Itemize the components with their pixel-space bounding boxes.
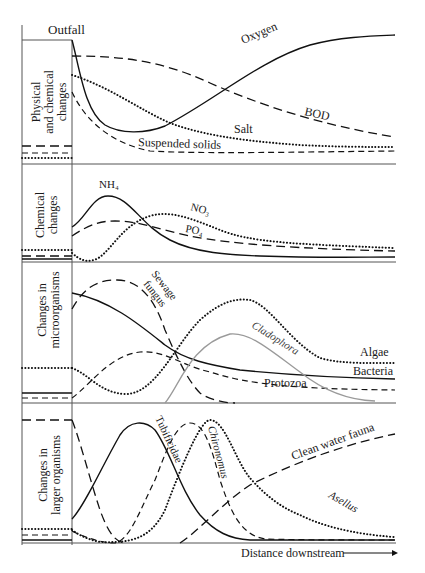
panel1-title-line2: and chemical — [42, 70, 56, 134]
bacteria-curve — [72, 293, 395, 379]
panel-microorganisms: Changes in microorganisms Sewage fungus … — [22, 268, 395, 403]
arrow-right-icon — [343, 550, 398, 556]
river-pollution-diagram: Outfall Physical and chemical changes Ox… — [0, 0, 425, 573]
nh4-curve — [72, 196, 395, 257]
panel2-title-line1: Chemical — [33, 191, 47, 238]
clean-fauna-drop-curve — [72, 420, 125, 543]
panel2-title-line2: changes — [46, 195, 60, 234]
asellus-label: Asellus — [326, 488, 360, 515]
bacteria-label: Bacteria — [353, 364, 394, 378]
panel3-title-line1: Changes in — [35, 283, 49, 337]
oxygen-label: Oxygen — [239, 19, 279, 47]
panel1-title-line3: changes — [55, 82, 69, 121]
protozoa-label: Protozoa — [264, 376, 307, 390]
salt-label: Salt — [234, 122, 253, 136]
suspended-solids-label: Suspended solids — [138, 135, 222, 152]
panel1-title-line1: Physical — [29, 81, 43, 122]
cladophora-label: Cladophora — [250, 319, 302, 358]
panel3-title-line2: microorganisms — [48, 271, 62, 348]
no3-label: NO₃ — [189, 200, 211, 217]
panel-larger-organisms: Changes in larger organisms Tubificidae … — [22, 414, 395, 543]
algae-label: Algae — [360, 345, 389, 359]
salt-curve — [72, 75, 395, 147]
protozoa-curve — [72, 352, 395, 398]
panel-chemical: Chemical changes NH₄ NO₃ PO₄ — [22, 178, 395, 261]
nh4-label: NH₄ — [99, 178, 119, 190]
x-axis-label: Distance downstream — [241, 546, 345, 560]
outfall-label: Outfall — [48, 22, 85, 37]
panel-physical-chemical: Physical and chemical changes Oxygen BOD… — [22, 19, 395, 158]
oxygen-curve — [72, 35, 395, 132]
panel4-title-line2: larger organisms — [49, 435, 63, 515]
chironomus-label: Chironomus — [206, 424, 232, 479]
no3-curve — [72, 214, 395, 261]
panel4-title-line1: Changes in — [36, 448, 50, 502]
bod-label: BOD — [303, 104, 331, 123]
algae-curve — [72, 300, 395, 394]
